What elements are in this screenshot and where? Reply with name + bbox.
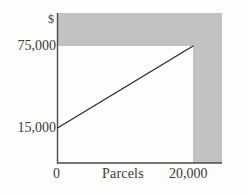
chart-figure: $ 75,000 15,000 0 Parcels 20,000 bbox=[0, 0, 248, 194]
x-axis-tick-label-upper: 20,000 bbox=[169, 167, 208, 181]
series-cost-line bbox=[58, 46, 194, 128]
shade-right-block bbox=[193, 46, 222, 163]
y-axis-tick-label-upper: 75,000 bbox=[18, 39, 57, 53]
y-axis-currency-label: $ bbox=[48, 13, 54, 25]
x-axis-title: Parcels bbox=[102, 167, 144, 181]
plot-area bbox=[0, 0, 248, 194]
shade-upper-band bbox=[57, 13, 222, 46]
x-axis-tick-label-origin: 0 bbox=[53, 167, 60, 181]
y-axis-tick-label-lower: 15,000 bbox=[18, 121, 57, 135]
